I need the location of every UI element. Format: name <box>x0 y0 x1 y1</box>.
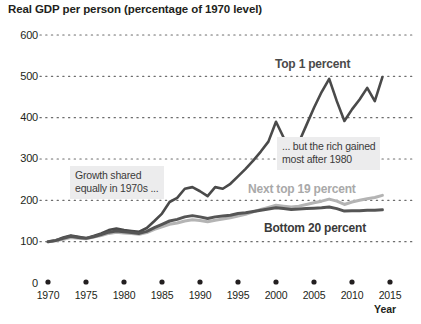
series-label-next-top-19-percent: Next top 19 percent <box>248 182 356 196</box>
y-tick-label: 600 <box>8 29 38 41</box>
x-tick-label: 2015 <box>370 289 410 301</box>
x-tick-dots-group <box>45 279 392 284</box>
chart-figure: Real GDP per person (percentage of 1970 … <box>0 0 421 324</box>
annotation-growth-shared: Growth shared equally in 1970s ... <box>70 166 164 199</box>
x-tick-label: 2010 <box>332 289 372 301</box>
y-tick-label: 200 <box>8 194 38 206</box>
annotation-line: ... but the rich gained <box>282 140 375 153</box>
y-tick-label: 0 <box>8 277 38 289</box>
x-tick-label: 1985 <box>142 289 182 301</box>
x-tick-label: 1990 <box>180 289 220 301</box>
x-tick-label: 2005 <box>294 289 334 301</box>
series-label-top-1-percent: Top 1 percent <box>275 57 350 71</box>
x-tick-label: 1970 <box>28 289 68 301</box>
y-tick-label: 400 <box>8 111 38 123</box>
x-tick-label: 1980 <box>104 289 144 301</box>
x-axis-title: Year <box>374 303 396 315</box>
x-tick-label: 1995 <box>218 289 258 301</box>
y-tick-label: 500 <box>8 70 38 82</box>
y-tick-label: 300 <box>8 152 38 164</box>
annotation-line: most after 1980 <box>282 153 375 166</box>
annotation-line: Growth shared <box>75 169 159 182</box>
annotation-rich-gained: ... but the rich gained most after 1980 <box>277 137 380 170</box>
annotation-line: equally in 1970s ... <box>75 182 159 195</box>
x-tick-label: 1975 <box>66 289 106 301</box>
series-label-bottom-20-percent: Bottom 20 percent <box>264 221 366 235</box>
x-tick-label: 2000 <box>256 289 296 301</box>
y-tick-label: 100 <box>8 235 38 247</box>
